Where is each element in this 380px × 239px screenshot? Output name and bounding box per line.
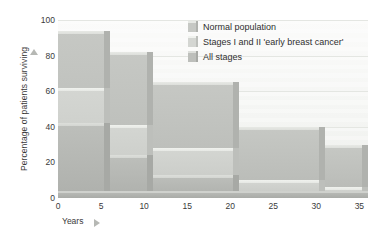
- x-axis-arrow-icon: [94, 219, 100, 227]
- baseline-slab: [58, 192, 368, 198]
- y-tick-label: 100: [41, 15, 55, 25]
- step-front-face: [58, 123, 110, 198]
- x-tick-label: 35: [355, 201, 364, 211]
- legend-swatch-side: [196, 36, 198, 47]
- step-top-face: [153, 148, 239, 151]
- legend-swatch-side: [196, 21, 198, 32]
- y-tick-label: 80: [46, 51, 55, 61]
- y-tick-label: 60: [46, 86, 55, 96]
- step-top-face: [58, 123, 110, 126]
- legend-swatch-icon: [188, 36, 198, 47]
- baseline-slab-top: [58, 191, 368, 193]
- legend-item[interactable]: Normal population: [188, 20, 374, 34]
- series-step: [58, 123, 110, 198]
- x-tick-label: 30: [312, 201, 321, 211]
- legend-label: All stages: [203, 50, 242, 64]
- chart-figure: Percentage of patients surviving 0204060…: [0, 0, 380, 239]
- y-tick-label: 0: [50, 193, 55, 203]
- x-tick-label: 10: [139, 201, 148, 211]
- legend-swatch-icon: [188, 21, 198, 32]
- step-top-face: [153, 175, 239, 178]
- legend-swatch-icon: [188, 51, 198, 62]
- x-axis-title: Years: [62, 216, 83, 226]
- chart-legend: Normal populationStages I and II 'early …: [188, 20, 374, 66]
- y-tick-label: 20: [46, 157, 55, 167]
- x-tick-label: 0: [56, 201, 61, 211]
- step-top-face: [58, 88, 110, 91]
- x-tick-label: 5: [99, 201, 104, 211]
- legend-item[interactable]: Stages I and II 'early breast cancer': [188, 35, 374, 49]
- step-top-face: [239, 127, 325, 130]
- step-top-face: [239, 180, 325, 183]
- y-tick-label: 40: [46, 122, 55, 132]
- legend-label: Normal population: [203, 20, 276, 34]
- legend-item[interactable]: All stages: [188, 50, 374, 64]
- step-top-face: [153, 82, 239, 85]
- x-tick-label: 25: [269, 201, 278, 211]
- step-top-face: [58, 31, 110, 34]
- legend-swatch-side: [196, 51, 198, 62]
- x-tick-label: 20: [225, 201, 234, 211]
- x-tick-label: 15: [182, 201, 191, 211]
- legend-label: Stages I and II 'early breast cancer': [203, 35, 344, 49]
